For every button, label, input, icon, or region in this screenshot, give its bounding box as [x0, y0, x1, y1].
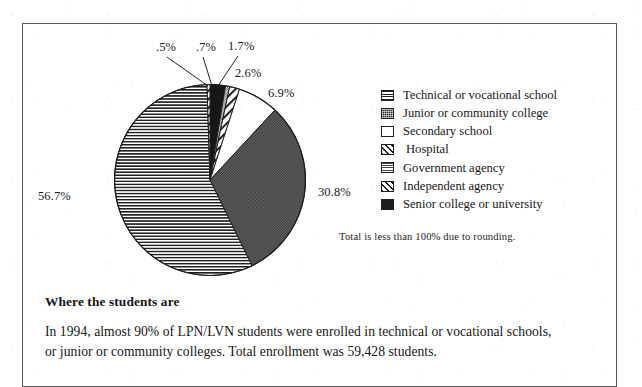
- legend-item-independent-agency: Independent agency: [381, 177, 606, 195]
- legend-label: Government agency: [403, 162, 505, 175]
- chart-legend: Technical or vocational school Junior or…: [381, 86, 606, 213]
- white-swatch-icon: [381, 126, 394, 137]
- pie-label-technical-school: 56.7%: [38, 189, 71, 204]
- legend-item-senior-college: Senior college or university: [381, 195, 606, 213]
- legend-label: Hospital: [403, 143, 449, 156]
- dark-check-swatch-icon: [381, 108, 394, 119]
- pie-label-independent-agency: 1.7%: [228, 39, 254, 54]
- legend-item-hospital: Hospital: [381, 141, 606, 159]
- legend-label: Secondary school: [403, 125, 492, 138]
- legend-item-secondary-school: Secondary school: [381, 122, 606, 140]
- horizontal-lines-swatch-icon: [381, 90, 394, 101]
- caption-line-2: or junior or community colleges. Total e…: [45, 342, 590, 362]
- pie-label-hospital: .5%: [156, 40, 176, 55]
- caption-title: Where the students are: [45, 294, 590, 310]
- legend-item-government-agency: Government agency: [381, 159, 606, 177]
- legend-item-technical-school: Technical or vocational school: [381, 86, 606, 104]
- pie-label-senior-college: 2.6%: [235, 66, 261, 81]
- pie-chart: [113, 83, 307, 277]
- diagonal-hatch-swatch-icon: [381, 144, 394, 155]
- legend-label: Technical or vocational school: [403, 89, 557, 102]
- legend-label: Senior college or university: [403, 198, 543, 211]
- chart-rounding-note: Total is less than 100% due to rounding.: [339, 231, 516, 242]
- legend-item-junior-college: Junior or community college: [381, 104, 606, 122]
- pie-chart-svg: [113, 83, 307, 277]
- grey-check-swatch-icon: [381, 162, 394, 173]
- legend-label: Junior or community college: [403, 107, 548, 120]
- pie-label-secondary-school: 6.9%: [268, 86, 294, 101]
- caption-line-1: In 1994, almost 90% of LPN/LVN students …: [45, 322, 590, 342]
- caption-block: Where the students are In 1994, almost 9…: [45, 294, 590, 362]
- legend-label: Independent agency: [403, 180, 504, 193]
- pie-label-junior-college: 30.8%: [318, 185, 351, 200]
- solid-black-swatch-icon: [381, 199, 394, 210]
- pie-label-government-agency: .7%: [196, 40, 216, 55]
- pie-slices: [114, 84, 305, 275]
- diagonal-hatch-swatch-icon: [381, 181, 394, 192]
